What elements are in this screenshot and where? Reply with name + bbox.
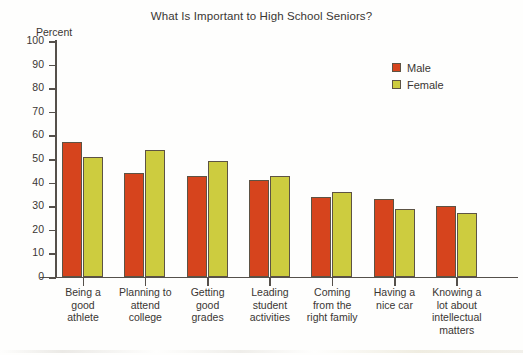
legend-item-male[interactable]: Male [392, 60, 444, 75]
bar-male [311, 197, 331, 277]
x-axis-tick-mark [269, 277, 271, 286]
bar-female [395, 209, 415, 277]
y-axis-tick-label: 80 [32, 81, 44, 93]
legend-item-female[interactable]: Female [392, 77, 444, 92]
y-axis-tick-label: 50 [32, 152, 44, 164]
x-axis-tick-mark [456, 277, 458, 286]
bar-group [311, 41, 353, 277]
legend-item-label: Male [407, 62, 431, 74]
y-axis-tick-label: 20 [32, 223, 44, 235]
x-axis-tick-mark [207, 277, 209, 286]
y-axis-tick-mark [49, 206, 56, 208]
bar-female [457, 213, 477, 277]
y-axis-tick-label: 0 [38, 270, 44, 282]
bar-female [83, 157, 103, 277]
y-axis-tick-label: 30 [32, 199, 44, 211]
y-axis-tick-label: 10 [32, 246, 44, 258]
chart-title: What Is Important to High School Seniors… [0, 10, 523, 22]
bar-female [270, 176, 290, 277]
bar-group [124, 41, 166, 277]
bar-female [208, 161, 228, 277]
x-axis-category-label: Knowing a lot about intellectual matters [426, 286, 488, 336]
y-axis-tick-label: 100 [26, 34, 44, 46]
y-axis-tick-mark [49, 230, 56, 232]
y-axis-tick-label: 40 [32, 176, 44, 188]
y-axis-tick-mark [49, 253, 56, 255]
x-axis-category-label: Getting good grades [177, 286, 239, 324]
bar-male [124, 173, 144, 277]
y-axis-tick-mark [49, 277, 56, 279]
bar-male [436, 206, 456, 277]
y-axis-tick-mark [49, 65, 56, 67]
y-axis-tick-mark [49, 159, 56, 161]
x-axis-category-label: Coming from the right family [301, 286, 363, 324]
x-axis-category-label: Planning to attend college [114, 286, 176, 324]
bar-female [145, 150, 165, 277]
scan-artifact [0, 350, 523, 353]
y-axis-tick-label: 90 [32, 58, 44, 70]
x-axis-tick-mark [145, 277, 147, 286]
y-axis-tick-label: 70 [32, 105, 44, 117]
y-axis-tick-mark [49, 41, 56, 43]
y-axis-tick-label: 60 [32, 128, 44, 140]
bar-group [187, 41, 229, 277]
y-axis-tick-mark [49, 112, 56, 114]
bar-male [187, 176, 207, 277]
bar-female [332, 192, 352, 277]
x-axis-tick-mark [83, 277, 85, 286]
bar-group [62, 41, 104, 277]
x-axis-category-label: Leading student activities [239, 286, 301, 324]
y-axis-tick-mark [49, 135, 56, 137]
x-axis-category-label: Having a nice car [364, 286, 426, 311]
y-axis-tick-mark [49, 88, 56, 90]
bar-group [249, 41, 291, 277]
x-axis-tick-mark [332, 277, 334, 286]
x-axis-category-label: Being a good athlete [52, 286, 114, 324]
legend-item-label: Female [407, 79, 444, 91]
y-axis-tick-mark [49, 183, 56, 185]
bar-male [249, 180, 269, 277]
x-axis-tick-mark [394, 277, 396, 286]
bar-male [62, 142, 82, 277]
bar-male [374, 199, 394, 277]
legend-swatch-icon [392, 63, 401, 72]
bar-chart: What Is Important to High School Seniors… [0, 0, 523, 355]
legend: MaleFemale [392, 60, 444, 94]
legend-swatch-icon [392, 80, 401, 89]
